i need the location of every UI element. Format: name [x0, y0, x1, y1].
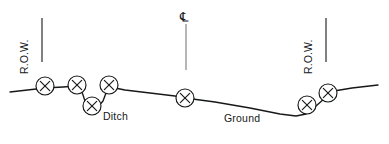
survey-marker — [298, 96, 316, 114]
cross-section-diagram: R.O.W. R.O.W. ℄ Ditch Ground — [0, 0, 389, 144]
survey-marker — [36, 77, 54, 95]
ground-label: Ground — [224, 112, 260, 124]
survey-markers-layer — [36, 76, 337, 115]
survey-marker — [68, 76, 86, 94]
survey-marker — [83, 97, 101, 115]
survey-marker — [100, 76, 118, 94]
row-left-label: R.O.W. — [18, 40, 30, 74]
row-right-label: R.O.W. — [302, 40, 314, 74]
survey-marker — [176, 89, 194, 107]
survey-marker — [319, 84, 337, 102]
ditch-label: Ditch — [103, 110, 128, 122]
centerline-symbol: ℄ — [180, 10, 188, 23]
diagram-canvas — [0, 0, 389, 144]
